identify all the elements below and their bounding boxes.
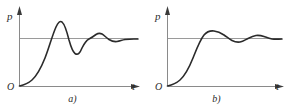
panel-a: p t O a)	[0, 0, 145, 109]
panel-b-origin-label: O	[155, 82, 162, 92]
panel-b-response-curve	[168, 31, 283, 86]
panel-a-origin-label: O	[7, 82, 14, 92]
panel-a-plot	[0, 0, 145, 95]
panel-a-x-axis-label: t	[132, 81, 135, 92]
panel-a-y-axis-label: p	[7, 11, 13, 22]
panel-b-x-axis-label: t	[276, 81, 279, 92]
panel-b-y-axis-arrow	[165, 6, 170, 15]
panel-b: p t O b)	[144, 0, 289, 109]
panel-b-caption: b)	[144, 94, 289, 104]
figure-container: p t O a) p t O b)	[0, 0, 289, 109]
panel-b-plot	[144, 0, 289, 95]
panel-a-response-curve	[20, 22, 139, 86]
panel-a-caption: a)	[0, 94, 145, 104]
panel-a-y-axis-arrow	[17, 6, 22, 15]
panel-b-y-axis-label: p	[155, 11, 161, 22]
